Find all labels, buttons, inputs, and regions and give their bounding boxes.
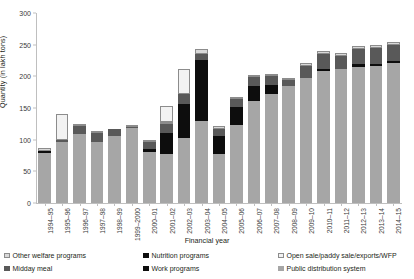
bar-segment <box>195 60 208 121</box>
x-axis-tick-mark <box>236 203 237 206</box>
x-axis-tick-mark <box>376 203 377 206</box>
bar-group[interactable] <box>178 13 191 203</box>
legend-item[interactable]: Midday meal <box>4 262 86 275</box>
bar-segment <box>126 128 139 203</box>
bar-segment <box>73 134 86 203</box>
bar-group[interactable] <box>335 13 348 203</box>
bar-segment <box>160 154 173 203</box>
legend-swatch-other-welfare <box>4 253 10 259</box>
bar-segment <box>91 142 104 203</box>
x-axis-tick-mark <box>219 203 220 206</box>
bar-group[interactable] <box>265 13 278 203</box>
x-axis-tick-mark <box>114 203 115 206</box>
y-axis-tick-mark <box>33 171 36 172</box>
x-axis-tick-label: 2006–07 <box>257 208 264 234</box>
y-axis-tick-mark <box>33 139 36 140</box>
legend-item[interactable]: Public distribution system <box>278 262 397 275</box>
y-axis-tick-label: 250 <box>0 41 31 48</box>
bar-group[interactable] <box>370 13 383 203</box>
y-axis-tick-label: 0 <box>0 200 31 207</box>
bar-segment <box>248 101 261 203</box>
bar-segment <box>178 94 191 104</box>
plot-area <box>36 13 402 203</box>
x-axis-tick-mark <box>271 203 272 206</box>
x-axis-tick-label: 1997–98 <box>100 208 107 234</box>
x-axis-tick-mark <box>184 203 185 206</box>
bar-segment <box>265 76 278 86</box>
bar-stack <box>56 114 69 203</box>
bar-group[interactable] <box>108 13 121 203</box>
x-axis-tick-mark <box>132 203 133 206</box>
bar-segment <box>335 69 348 203</box>
x-axis-tick-mark <box>202 203 203 206</box>
legend-item[interactable]: Work programs <box>143 262 209 275</box>
x-axis-tick-mark <box>289 203 290 206</box>
y-axis-tick-mark <box>33 13 36 14</box>
bar-group[interactable] <box>73 13 86 203</box>
bar-stack <box>178 69 191 203</box>
legend-swatch-nutrition <box>143 253 149 259</box>
x-axis-tick-label: 1996–97 <box>83 208 90 234</box>
legend-item-label: Midday meal <box>13 265 53 272</box>
x-axis-tick-label: 2000–01 <box>152 208 159 234</box>
bar-segment <box>300 66 313 77</box>
stacked-bar-chart-figure: Quantity (in lakh tons) 0501001502002503… <box>0 0 414 279</box>
legend-item-label: Open sale/paddy sale/exports/WFP <box>287 252 397 259</box>
bar-segment <box>38 153 51 203</box>
bar-stack <box>230 97 243 203</box>
bar-segment <box>248 77 261 87</box>
y-axis-tick-mark <box>33 44 36 45</box>
bar-group[interactable] <box>213 13 226 203</box>
bar-group[interactable] <box>387 13 400 203</box>
y-axis-tick-mark <box>33 76 36 77</box>
bar-group[interactable] <box>248 13 261 203</box>
bar-segment <box>230 125 243 203</box>
bar-segment <box>317 54 330 69</box>
legend-item-label: Work programs <box>152 265 200 272</box>
legend-item-label: Public distribution system <box>287 265 366 272</box>
bar-segment <box>282 86 295 203</box>
y-axis-tick-label: 150 <box>0 105 31 112</box>
bar-group[interactable] <box>195 13 208 203</box>
x-axis-tick-mark <box>167 203 168 206</box>
bar-segment <box>300 78 313 203</box>
bar-stack <box>108 129 121 203</box>
legend-item[interactable]: Nutrition programs <box>143 249 209 262</box>
bar-segment <box>230 99 243 107</box>
bar-stack <box>282 78 295 203</box>
bar-segment <box>213 136 226 154</box>
bar-group[interactable] <box>300 13 313 203</box>
legend-item[interactable]: Open sale/paddy sale/exports/WFP <box>278 249 397 262</box>
bar-segment <box>282 80 295 87</box>
x-axis-tick-label: 2014–15 <box>396 208 403 234</box>
x-axis-tick-mark <box>324 203 325 206</box>
bar-segment <box>108 129 121 136</box>
legend-column: Other welfare programsMidday meal <box>4 249 86 275</box>
y-axis-tick-label: 100 <box>0 136 31 143</box>
bar-stack <box>370 45 383 203</box>
bar-group[interactable] <box>317 13 330 203</box>
bar-group[interactable] <box>352 13 365 203</box>
bar-stack <box>265 74 278 203</box>
bar-segment <box>265 94 278 203</box>
bar-segment <box>248 86 261 101</box>
bar-group[interactable] <box>282 13 295 203</box>
bar-group[interactable] <box>38 13 51 203</box>
legend-swatch-pds <box>278 266 284 272</box>
bar-segment <box>108 136 121 203</box>
bar-group[interactable] <box>91 13 104 203</box>
legend-item-label: Nutrition programs <box>152 252 210 259</box>
x-axis-tick-label: 2004–05 <box>222 208 229 234</box>
bar-group[interactable] <box>160 13 173 203</box>
bar-stack <box>213 126 226 203</box>
bar-stack <box>91 131 104 203</box>
legend-item[interactable]: Other welfare programs <box>4 249 86 262</box>
x-axis-tick-mark <box>393 203 394 206</box>
bar-group[interactable] <box>126 13 139 203</box>
x-axis-tick-mark <box>80 203 81 206</box>
y-axis-tick-mark <box>33 203 36 204</box>
bar-group[interactable] <box>230 13 243 203</box>
bar-group[interactable] <box>143 13 156 203</box>
bar-group[interactable] <box>56 13 69 203</box>
x-axis-tick-mark <box>358 203 359 206</box>
